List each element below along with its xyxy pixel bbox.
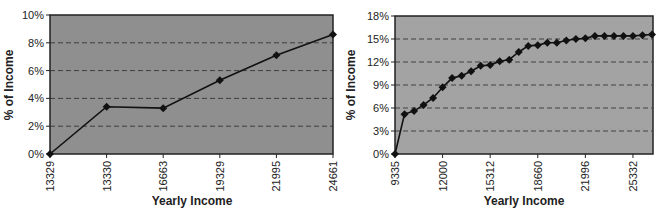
right-chart: 0%3%6%9%12%15%18% 9335120001531218660219… [344, 10, 656, 208]
x-tick-label: 15312 [484, 161, 496, 192]
y-tick-label: 15% [367, 33, 389, 45]
left-y-axis-ticks: 0%2%4%6%8%10% [22, 9, 50, 160]
x-tick-label: 13329 [44, 161, 56, 192]
left-plot-area [50, 15, 333, 154]
left-x-axis-title: Yearly Income [152, 194, 233, 208]
x-tick-label: 18660 [532, 161, 544, 192]
right-x-axis-title: Yearly Income [484, 194, 565, 208]
y-tick-label: 8% [28, 37, 44, 49]
x-tick-label: 21995 [270, 161, 282, 192]
x-tick-label: 12000 [437, 161, 449, 192]
left-chart: 0%2%4%6%8%10% 13329133301666319329219952… [2, 9, 339, 208]
y-tick-label: 0% [373, 148, 389, 160]
y-tick-label: 2% [28, 120, 44, 132]
y-tick-label: 10% [22, 9, 44, 21]
x-tick-label: 25332 [627, 161, 639, 192]
y-tick-label: 12% [367, 56, 389, 68]
right-x-axis-ticks: 93351200015312186602199625332 [389, 154, 639, 192]
y-tick-label: 9% [373, 79, 389, 91]
y-tick-label: 18% [367, 10, 389, 22]
x-tick-label: 16663 [157, 161, 169, 192]
right-y-axis-ticks: 0%3%6%9%12%15%18% [367, 10, 395, 160]
x-tick-label: 21996 [579, 161, 591, 192]
y-tick-label: 6% [373, 102, 389, 114]
x-tick-label: 19329 [214, 161, 226, 192]
right-y-axis-title: % of Income [344, 49, 358, 120]
y-tick-label: 3% [373, 125, 389, 137]
y-tick-label: 6% [28, 65, 44, 77]
left-x-axis-ticks: 133291333016663193292199524661 [44, 154, 339, 192]
left-y-axis-title: % of Income [2, 49, 16, 120]
y-tick-label: 4% [28, 92, 44, 104]
y-tick-label: 0% [28, 148, 44, 160]
x-tick-label: 24661 [327, 161, 339, 192]
x-tick-label: 13330 [101, 161, 113, 192]
charts-canvas: 0%2%4%6%8%10% 13329133301666319329219952… [0, 0, 664, 217]
x-tick-label: 9335 [389, 161, 401, 185]
